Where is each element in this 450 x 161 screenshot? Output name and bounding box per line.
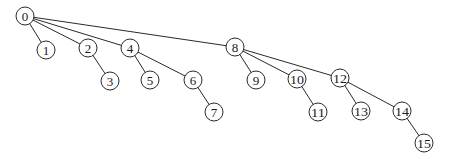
tree-node-11: 11 bbox=[309, 103, 327, 121]
node-label: 10 bbox=[290, 72, 304, 87]
node-label: 11 bbox=[311, 105, 325, 120]
tree-node-10: 10 bbox=[288, 70, 306, 88]
node-label: 8 bbox=[232, 40, 239, 55]
node-label: 6 bbox=[190, 73, 197, 88]
edges-group bbox=[25, 16, 424, 143]
node-label: 2 bbox=[85, 41, 92, 56]
node-label: 14 bbox=[395, 104, 410, 119]
tree-node-1: 1 bbox=[37, 41, 55, 59]
node-label: 1 bbox=[43, 43, 50, 58]
tree-node-13: 13 bbox=[352, 102, 370, 120]
node-label: 13 bbox=[354, 104, 368, 119]
edge-12-14 bbox=[340, 78, 402, 111]
tree-node-0: 0 bbox=[16, 7, 34, 25]
tree-node-9: 9 bbox=[247, 71, 265, 89]
node-label: 5 bbox=[147, 73, 154, 88]
tree-node-6: 6 bbox=[184, 71, 202, 89]
tree-node-3: 3 bbox=[101, 72, 119, 90]
tree-node-4: 4 bbox=[121, 39, 139, 57]
tree-node-5: 5 bbox=[141, 71, 159, 89]
node-label: 15 bbox=[417, 136, 431, 151]
tree-diagram: 0123456789101112131415 bbox=[0, 0, 450, 161]
node-label: 7 bbox=[211, 105, 218, 120]
tree-node-8: 8 bbox=[226, 38, 244, 56]
node-label: 0 bbox=[22, 9, 29, 24]
tree-node-2: 2 bbox=[79, 39, 97, 57]
node-label: 4 bbox=[127, 41, 134, 56]
tree-node-7: 7 bbox=[205, 103, 223, 121]
node-label: 3 bbox=[107, 74, 114, 89]
node-label: 9 bbox=[253, 73, 260, 88]
nodes-group: 0123456789101112131415 bbox=[16, 7, 433, 152]
node-label: 12 bbox=[333, 71, 347, 86]
tree-node-12: 12 bbox=[331, 69, 349, 87]
tree-node-15: 15 bbox=[415, 134, 433, 152]
tree-node-14: 14 bbox=[393, 102, 411, 120]
